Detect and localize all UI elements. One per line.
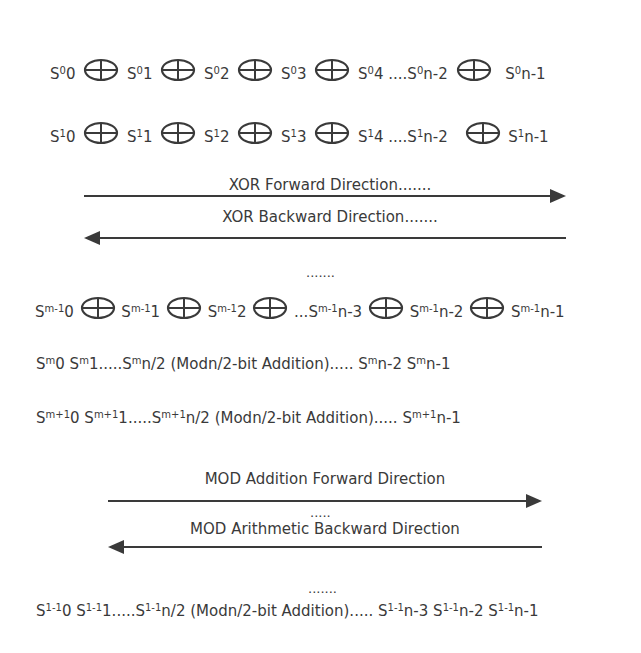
mod-operation-text: (Modn/2-bit Addition)..... xyxy=(185,602,378,620)
state-term: Smn-1 xyxy=(407,354,451,374)
mod-ellipsis-after: ....... xyxy=(308,584,337,594)
xor-row-m-1: Sm-10 Sm-11 Sm-12 ...Sm-1n-3 Sm-1n-2 Sm-… xyxy=(35,296,565,322)
state-term: S10 xyxy=(50,127,75,147)
xor-icon xyxy=(314,121,350,145)
state-term: S13 xyxy=(281,127,306,147)
xor-icon xyxy=(465,121,501,145)
mod-forward-label: MOD Addition Forward Direction xyxy=(175,470,475,488)
state-term: S1-1n-3 xyxy=(378,601,428,621)
xor-icon xyxy=(252,296,288,320)
xor-icon xyxy=(83,121,119,145)
xor-icon xyxy=(469,296,505,320)
state-term: Sm-10 xyxy=(35,302,74,322)
state-term: S1-11..... xyxy=(76,601,135,621)
state-term: Smn-2 xyxy=(358,354,402,374)
mod-row-m: Sm0 Sm1.....Smn/2 (Modn/2-bit Addition).… xyxy=(36,354,450,374)
xor-icon xyxy=(160,58,196,82)
state-term: S1-10 xyxy=(36,601,71,621)
state-term: S01 xyxy=(127,64,152,84)
state-term: Sm-1n-1 xyxy=(511,302,565,322)
xor-backward-arrow xyxy=(84,230,568,246)
xor-icon xyxy=(456,58,492,82)
state-term: S14 ....S1n-2 xyxy=(358,127,448,147)
state-term: Smn/2 xyxy=(122,354,165,374)
xor-icon xyxy=(237,58,273,82)
state-term: S1-1n-1 xyxy=(488,601,538,621)
xor-row-0: S00 S01 S02 S03 S04 ....S0n-2 S0n-1 xyxy=(50,58,546,84)
xor-icon xyxy=(80,296,116,320)
state-term: S03 xyxy=(281,64,306,84)
state-term: ...Sm-1n-3 xyxy=(294,302,362,322)
state-term: Sm-11 xyxy=(121,302,160,322)
state-term: S11 xyxy=(127,127,152,147)
state-term: S02 xyxy=(204,64,229,84)
mod-row-m-plus-1: Sm+10 Sm+11.....Sm+1n/2 (Modn/2-bit Addi… xyxy=(36,408,461,428)
state-term: Sm-1n-2 xyxy=(410,302,464,322)
state-term: Sm1..... xyxy=(70,354,123,374)
xor-icon xyxy=(368,296,404,320)
xor-icon xyxy=(83,58,119,82)
state-term: S04 ....S0n-2 xyxy=(358,64,448,84)
xor-ellipsis: ....... xyxy=(306,268,335,278)
xor-icon xyxy=(166,296,202,320)
mod-backward-arrow xyxy=(108,539,544,555)
state-term: S12 xyxy=(204,127,229,147)
mod-row-last: S1-10 S1-11.....S1-1n/2 (Modn/2-bit Addi… xyxy=(36,601,539,621)
state-term: Sm+1n-1 xyxy=(402,408,460,428)
mod-operation-text: (Modn/2-bit Addition)..... xyxy=(166,355,359,373)
mod-operation-text: (Modn/2-bit Addition)..... xyxy=(210,409,403,427)
state-term: S1n-1 xyxy=(508,127,548,147)
state-term: S00 xyxy=(50,64,75,84)
xor-icon xyxy=(160,121,196,145)
state-term: Sm+11..... xyxy=(84,408,151,428)
xor-icon xyxy=(237,121,273,145)
state-term: S1-1n/2 xyxy=(135,601,185,621)
state-term: S1-1n-2 xyxy=(433,601,483,621)
state-term: Sm+1n/2 xyxy=(152,408,210,428)
xor-backward-label: XOR Backward Direction....... xyxy=(190,208,470,226)
mod-ellipsis-between: ..... xyxy=(310,508,331,518)
state-term: S0n-1 xyxy=(505,64,545,84)
state-term: Sm0 xyxy=(36,354,65,374)
xor-icon xyxy=(314,58,350,82)
xor-forward-arrow xyxy=(84,188,568,204)
xor-row-1: S10 S11 S12 S13 S14 ....S1n-2 S1n-1 xyxy=(50,121,549,147)
state-term: Sm+10 xyxy=(36,408,80,428)
state-term: Sm-12 xyxy=(208,302,247,322)
mod-backward-label: MOD Arithmetic Backward Direction xyxy=(160,520,490,538)
